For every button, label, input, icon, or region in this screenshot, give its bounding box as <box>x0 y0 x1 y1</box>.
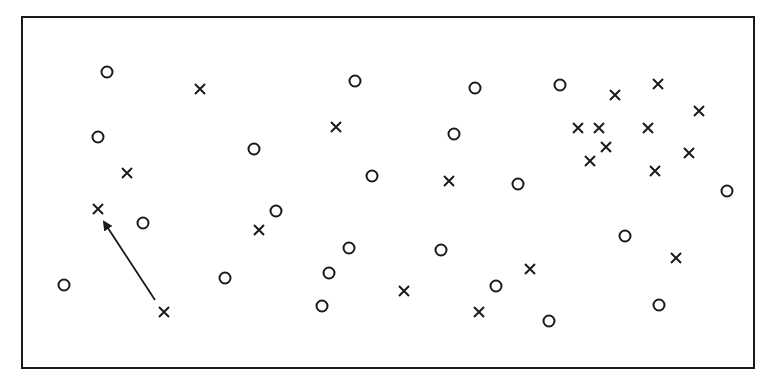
circle-marker <box>470 83 481 94</box>
circle-marker <box>344 243 355 254</box>
cross-marker <box>254 225 264 235</box>
circle-marker <box>324 268 335 279</box>
cross-marker <box>525 264 535 274</box>
cross-marker <box>399 286 409 296</box>
arrow-indicator <box>104 222 155 300</box>
circle-marker <box>449 129 460 140</box>
circle-marker <box>436 245 447 256</box>
circle-marker <box>722 186 733 197</box>
cross-marker <box>643 123 653 133</box>
circle-marker <box>367 171 378 182</box>
circle-marker <box>93 132 104 143</box>
cross-marker <box>671 253 681 263</box>
circle-marker <box>249 144 260 155</box>
circle-marker <box>220 273 231 284</box>
cross-markers <box>93 79 704 317</box>
circle-marker <box>620 231 631 242</box>
cross-marker <box>122 168 132 178</box>
circle-marker <box>317 301 328 312</box>
diagram-frame <box>22 17 754 368</box>
cross-marker <box>601 142 611 152</box>
cross-marker <box>684 148 694 158</box>
cross-marker <box>650 166 660 176</box>
circle-marker <box>544 316 555 327</box>
circle-markers <box>59 67 733 327</box>
cross-marker <box>331 122 341 132</box>
cross-marker <box>694 106 704 116</box>
cross-marker <box>653 79 663 89</box>
circle-marker <box>491 281 502 292</box>
cross-marker <box>195 84 205 94</box>
circle-marker <box>102 67 113 78</box>
circle-marker <box>271 206 282 217</box>
circle-marker <box>350 76 361 87</box>
circle-marker <box>654 300 665 311</box>
cross-marker <box>610 90 620 100</box>
cross-marker <box>444 176 454 186</box>
scatter-diagram <box>0 0 770 391</box>
circle-marker <box>513 179 524 190</box>
cross-marker <box>474 307 484 317</box>
cross-marker <box>159 307 169 317</box>
cross-marker <box>93 204 103 214</box>
circle-marker <box>138 218 149 229</box>
circle-marker <box>555 80 566 91</box>
cross-marker <box>573 123 583 133</box>
circle-marker <box>59 280 70 291</box>
diagram-canvas <box>0 0 770 391</box>
cross-marker <box>585 156 595 166</box>
cross-marker <box>594 123 604 133</box>
